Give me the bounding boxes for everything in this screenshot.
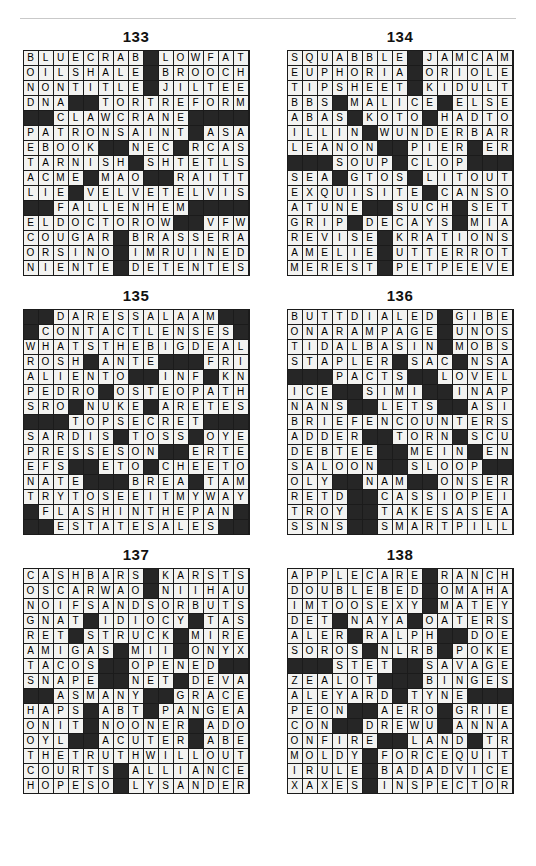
grid-letter-cell: L	[69, 111, 84, 126]
grid-letter-cell: C	[54, 584, 69, 599]
grid-letter-cell: L	[348, 584, 363, 599]
grid-letter-cell: I	[99, 614, 114, 629]
grid-letter-cell: A	[333, 340, 348, 355]
grid-letter-cell: A	[204, 719, 219, 734]
grid-block-cell	[144, 460, 159, 475]
grid-letter-cell: R	[24, 629, 39, 644]
grid-letter-cell: A	[423, 734, 438, 749]
grid-letter-cell: E	[393, 51, 408, 66]
grid-letter-cell: E	[189, 156, 204, 171]
crossword-grid[interactable]: CASHBARSKARSTSOSCARWAONIIHAUNOIFSANDSORB…	[23, 568, 250, 794]
grid-letter-cell: P	[453, 644, 468, 659]
grid-letter-cell: E	[234, 445, 249, 460]
grid-block-cell	[438, 325, 453, 340]
grid-letter-cell: T	[84, 520, 99, 535]
grid-letter-cell: R	[453, 141, 468, 156]
grid-letter-cell: L	[54, 734, 69, 749]
grid-letter-cell: S	[393, 171, 408, 186]
grid-letter-cell: R	[453, 246, 468, 261]
grid-block-cell	[174, 445, 189, 460]
grid-letter-cell: C	[468, 51, 483, 66]
grid-letter-cell: A	[129, 764, 144, 779]
grid-letter-cell: K	[393, 231, 408, 246]
grid-letter-cell: I	[159, 370, 174, 385]
grid-block-cell	[144, 171, 159, 186]
grid-letter-cell: B	[423, 674, 438, 689]
grid-letter-cell: O	[129, 584, 144, 599]
grid-letter-cell: O	[348, 599, 363, 614]
crossword-grid[interactable]: DARESSALAAMCONTACTLENSESWHATSTHEBIGDEALR…	[23, 309, 250, 535]
grid-letter-cell: N	[189, 704, 204, 719]
grid-letter-cell: B	[318, 445, 333, 460]
grid-letter-cell: L	[189, 186, 204, 201]
grid-letter-cell: E	[144, 355, 159, 370]
grid-block-cell	[438, 310, 453, 325]
crossword-grid[interactable]: BUTTDIALEDGIBEONARAMPAGEUNOSTIDALBASINMO…	[287, 309, 514, 535]
grid-block-cell	[333, 171, 348, 186]
grid-letter-cell: A	[114, 584, 129, 599]
grid-letter-cell: I	[288, 385, 303, 400]
grid-block-cell	[438, 385, 453, 400]
grid-letter-cell: R	[159, 96, 174, 111]
grid-letter-cell: A	[393, 614, 408, 629]
grid-letter-cell: L	[114, 66, 129, 81]
grid-letter-cell: E	[234, 689, 249, 704]
grid-letter-cell: E	[363, 231, 378, 246]
grid-letter-cell: C	[408, 156, 423, 171]
grid-block-cell	[288, 659, 303, 674]
grid-letter-cell: L	[234, 340, 249, 355]
grid-letter-cell: R	[99, 51, 114, 66]
crossword-grid[interactable]: SQUABBLEJAMCAMEUPHORIAORIOLETIPSHEETKIDU…	[287, 50, 514, 276]
grid-letter-cell: R	[174, 719, 189, 734]
grid-block-cell	[378, 261, 393, 276]
grid-block-cell	[24, 325, 39, 340]
grid-letter-cell: R	[69, 385, 84, 400]
grid-letter-cell: N	[333, 201, 348, 216]
grid-letter-cell: T	[498, 171, 513, 186]
grid-block-cell	[498, 689, 513, 704]
grid-block-cell	[129, 370, 144, 385]
grid-letter-cell: O	[483, 779, 498, 794]
grid-letter-cell: B	[114, 704, 129, 719]
grid-letter-cell: I	[303, 340, 318, 355]
grid-letter-cell: A	[219, 490, 234, 505]
grid-letter-cell: O	[483, 246, 498, 261]
grid-letter-cell: K	[159, 569, 174, 584]
grid-letter-cell: A	[234, 674, 249, 689]
grid-letter-cell: T	[363, 674, 378, 689]
grid-letter-cell: N	[348, 126, 363, 141]
grid-letter-cell: A	[54, 96, 69, 111]
grid-letter-cell: R	[303, 764, 318, 779]
grid-block-cell	[189, 216, 204, 231]
grid-letter-cell: G	[24, 614, 39, 629]
grid-letter-cell: O	[423, 704, 438, 719]
crossword-grid[interactable]: APPLECARERANCHDOUBLEBEDOMAHAIMTOOSEXYMAT…	[287, 568, 514, 794]
grid-letter-cell: B	[468, 126, 483, 141]
grid-letter-cell: H	[39, 340, 54, 355]
grid-letter-cell: W	[24, 340, 39, 355]
grid-letter-cell: S	[84, 779, 99, 794]
grid-letter-cell: M	[144, 246, 159, 261]
grid-letter-cell: N	[453, 475, 468, 490]
grid-letter-cell: R	[393, 569, 408, 584]
grid-letter-cell: T	[498, 81, 513, 96]
grid-letter-cell: S	[378, 520, 393, 535]
grid-letter-cell: E	[363, 355, 378, 370]
grid-letter-cell: G	[204, 704, 219, 719]
grid-letter-cell: S	[498, 674, 513, 689]
grid-block-cell	[468, 689, 483, 704]
grid-letter-cell: U	[393, 126, 408, 141]
grid-letter-cell: O	[54, 325, 69, 340]
grid-block-cell	[498, 156, 513, 171]
grid-letter-cell: C	[24, 764, 39, 779]
grid-letter-cell: T	[144, 96, 159, 111]
grid-letter-cell: T	[408, 246, 423, 261]
grid-letter-cell: N	[39, 96, 54, 111]
grid-block-cell	[234, 520, 249, 535]
grid-letter-cell: S	[483, 355, 498, 370]
grid-letter-cell: I	[438, 171, 453, 186]
grid-letter-cell: E	[438, 779, 453, 794]
grid-letter-cell: A	[498, 216, 513, 231]
crossword-grid[interactable]: BLUECRABLOWFATOILSHALEBROOCHNONTITLEJILT…	[23, 50, 250, 276]
grid-letter-cell: T	[378, 505, 393, 520]
